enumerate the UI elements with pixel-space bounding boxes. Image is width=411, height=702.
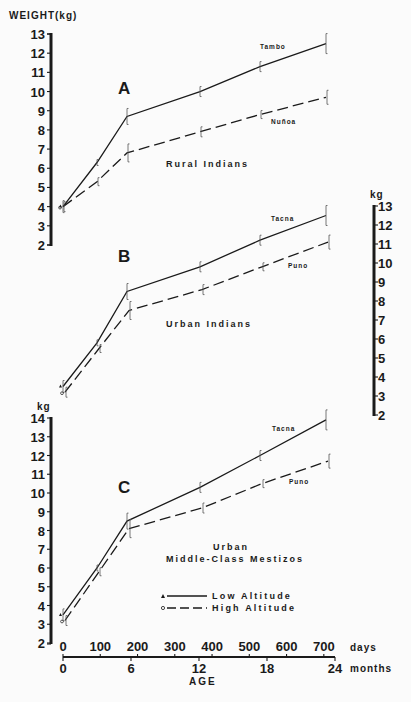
y-tick-label: 3 xyxy=(38,617,45,632)
circle-marker-icon xyxy=(61,620,64,623)
x-tick-days: 100 xyxy=(89,639,111,654)
panel-c-y-axis: kg 141312111098765432 xyxy=(31,401,51,651)
y-tick-label: 4 xyxy=(38,599,46,614)
error-bar xyxy=(263,480,265,488)
panel-c-caption-line2: Middle-Class Mestizos xyxy=(166,554,304,564)
panel-b-caption: Urban Indians xyxy=(166,319,252,329)
error-bar xyxy=(326,206,328,226)
y-tick-label: 9 xyxy=(38,505,45,520)
weight-growth-chart: WEIGHT(kg) 1312111098765432 kg 131211109… xyxy=(0,0,411,702)
panel-b-low-site: Tacna xyxy=(271,215,294,222)
error-bar xyxy=(98,178,100,186)
circle-marker-icon xyxy=(61,392,64,395)
y-tick-label: 14 xyxy=(31,411,46,426)
series-line xyxy=(63,420,326,615)
panel-a-y-axis: 1312111098765432 xyxy=(31,27,51,253)
y-tick-label: 7 xyxy=(38,542,45,557)
triangle-marker-icon xyxy=(161,594,165,598)
x-tick-days: 500 xyxy=(238,639,260,654)
y-tick-label: 9 xyxy=(38,104,45,119)
panel-a-caption: Rural Indians xyxy=(166,159,249,169)
panel-c-high-site: Puno xyxy=(289,478,309,485)
y-tick-label: 8 xyxy=(38,524,45,539)
x-axis-days-label: days xyxy=(350,642,377,653)
series-line xyxy=(63,216,326,387)
error-bar xyxy=(203,503,205,513)
x-tick-months: 6 xyxy=(127,661,134,676)
x-tick-months: 12 xyxy=(192,661,206,676)
y-tick-label: 8 xyxy=(38,123,45,138)
error-bar xyxy=(100,568,102,576)
y-tick-label: 12 xyxy=(378,218,392,233)
svg-text:High Altitude: High Altitude xyxy=(212,603,296,613)
x-tick-months: 0 xyxy=(59,661,66,676)
y-tick-label: 5 xyxy=(38,180,45,195)
x-tick-months: 18 xyxy=(260,661,274,676)
y-tick-label: 9 xyxy=(378,275,385,290)
y-tick-label: 3 xyxy=(38,219,45,234)
triangle-marker-icon xyxy=(59,385,62,388)
x-tick-days: 600 xyxy=(276,639,298,654)
series-line xyxy=(63,97,326,206)
legend-low-altitude: Low Altitude xyxy=(161,591,292,601)
x-tick-days: 0 xyxy=(59,639,66,654)
y-tick-label: 12 xyxy=(31,46,45,61)
y-tick-label: 8 xyxy=(378,294,385,309)
panel-a-letter: A xyxy=(118,79,130,98)
x-tick-days: 200 xyxy=(127,639,149,654)
y-tick-label: 10 xyxy=(378,256,392,271)
panel-b-high-site: Puno xyxy=(288,262,308,269)
y-tick-label: 4 xyxy=(38,200,46,215)
panel-c-letter: C xyxy=(118,478,130,497)
y-tick-label: 13 xyxy=(31,430,45,445)
circle-marker-icon xyxy=(161,606,164,609)
y-tick-label: 2 xyxy=(38,238,45,253)
y-tick-label: 11 xyxy=(378,237,392,252)
panel-a-low-site: Tambo xyxy=(260,43,286,50)
y-tick-label: 11 xyxy=(31,65,45,80)
panel-c-low-site: Tacna xyxy=(272,425,295,432)
y-tick-label: 11 xyxy=(31,467,45,482)
y-tick-label: 2 xyxy=(378,408,385,423)
panel-b-letter: B xyxy=(118,247,130,266)
y-tick-label: 10 xyxy=(31,486,45,501)
error-bar xyxy=(327,90,329,104)
series-line xyxy=(63,44,326,207)
y-tick-label: 5 xyxy=(378,351,385,366)
legend: Low Altitude High Altitude xyxy=(161,591,296,613)
x-axis: 010020030040050060070006121824 days mont… xyxy=(59,639,392,687)
x-tick-days: 400 xyxy=(201,639,223,654)
x-tick-days: 300 xyxy=(164,639,186,654)
y-tick-label: 7 xyxy=(38,142,45,157)
y-tick-label: 12 xyxy=(31,449,45,464)
error-bar xyxy=(329,454,331,468)
panel-a-high-site: Nuñoa xyxy=(271,118,296,125)
y-tick-label: 2 xyxy=(38,636,45,651)
y-tick-label: 6 xyxy=(38,561,45,576)
triangle-marker-icon xyxy=(59,613,62,616)
y-tick-label: 6 xyxy=(38,161,45,176)
y-tick-label: 3 xyxy=(378,389,385,404)
x-tick-months: 24 xyxy=(328,661,343,676)
y-tick-label: 13 xyxy=(31,27,45,42)
x-axis-months-label: months xyxy=(350,663,392,674)
y-tick-label: 7 xyxy=(378,313,385,328)
x-axis-title: AGE xyxy=(189,676,217,687)
legend-high-altitude: High Altitude xyxy=(161,603,296,613)
y-tick-label: 13 xyxy=(378,199,392,214)
y-axis-title: WEIGHT(kg) xyxy=(9,10,77,21)
y-tick-label: 6 xyxy=(378,332,385,347)
error-bar xyxy=(326,410,328,430)
error-bar xyxy=(326,34,328,54)
panel-c-caption-line1: Urban xyxy=(213,542,249,552)
error-bar xyxy=(329,235,331,249)
svg-text:Low Altitude: Low Altitude xyxy=(212,591,292,601)
y-tick-label: 4 xyxy=(378,370,386,385)
y-tick-label: 10 xyxy=(31,85,45,100)
panel-b-y-axis: kg 1312111098765432 xyxy=(370,189,392,423)
x-tick-days: 700 xyxy=(313,639,335,654)
y-tick-label: 5 xyxy=(38,580,45,595)
